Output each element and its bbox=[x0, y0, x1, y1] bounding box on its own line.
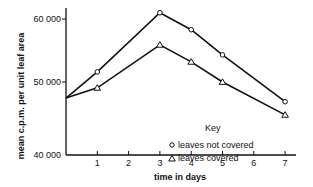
series-group bbox=[66, 10, 288, 117]
legend-item-not-covered: leaves not covered bbox=[178, 140, 254, 150]
line-chart: 123456740 00050 00060 000time in daysmea… bbox=[0, 0, 313, 187]
x-tick-label: 7 bbox=[283, 158, 288, 168]
x-tick-label: 1 bbox=[95, 158, 100, 168]
circle-marker-icon bbox=[158, 10, 163, 15]
circle-marker-icon bbox=[95, 70, 100, 75]
triangle-marker-icon bbox=[157, 42, 164, 48]
y-tick-label: 60 000 bbox=[33, 14, 61, 24]
legend-title: Key bbox=[205, 123, 221, 133]
y-tick-label: 40 000 bbox=[33, 150, 61, 160]
circle-marker-icon bbox=[189, 27, 194, 32]
circle-marker-icon bbox=[170, 143, 174, 147]
x-axis-title: time in days bbox=[154, 172, 206, 182]
triangle-marker-icon bbox=[169, 156, 176, 162]
circle-marker-icon bbox=[220, 53, 225, 58]
series-line-1 bbox=[66, 45, 285, 115]
y-tick-label: 50 000 bbox=[33, 77, 61, 87]
legend: Key leaves not covered leaves covered bbox=[169, 123, 254, 163]
legend-item-covered: leaves covered bbox=[178, 153, 239, 163]
axes bbox=[62, 8, 296, 155]
x-tick-label: 6 bbox=[251, 158, 256, 168]
circle-marker-icon bbox=[283, 99, 288, 104]
labels: 123456740 00050 00060 000time in daysmea… bbox=[16, 14, 288, 182]
x-tick-label: 2 bbox=[126, 158, 131, 168]
x-tick-label: 3 bbox=[157, 158, 162, 168]
y-axis-title: mean c.p.m. per unit leaf area bbox=[16, 32, 26, 160]
